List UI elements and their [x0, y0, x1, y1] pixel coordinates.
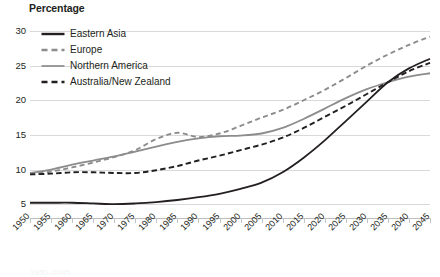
figure-caption: 1950–2045 [30, 268, 436, 277]
y-axis-tick-label: 20 [15, 96, 26, 106]
y-axis-tick-label: 15 [15, 130, 26, 140]
y-axis-tick-label: 30 [15, 26, 26, 36]
legend-item-label: Northern America [70, 61, 148, 71]
legend-swatch-dashed-icon [41, 77, 65, 87]
chart-title: Percentage [29, 2, 85, 14]
chart-legend: Eastern AsiaEuropeNorthern AmericaAustra… [41, 26, 221, 90]
legend-item[interactable]: Northern America [41, 58, 221, 74]
x-axis-tick-label: 1950 [11, 212, 32, 233]
y-axis-tick-label: 10 [15, 165, 26, 175]
legend-item[interactable]: Australia/New Zealand [41, 74, 221, 90]
y-axis-tick-label: 5 [21, 199, 26, 209]
legend-item[interactable]: Eastern Asia [41, 26, 221, 42]
legend-item-label: Eastern Asia [70, 29, 126, 39]
line-chart: Percentage 30252015105 19501955196019651… [0, 0, 440, 277]
legend-item-label: Australia/New Zealand [70, 77, 171, 87]
y-axis-tick-label: 25 [15, 61, 26, 71]
legend-item[interactable]: Europe [41, 42, 221, 58]
legend-swatch-solid-icon [41, 61, 65, 71]
legend-swatch-dashed-icon [41, 45, 65, 55]
legend-swatch-solid-icon [41, 29, 65, 39]
legend-item-label: Europe [70, 45, 102, 55]
